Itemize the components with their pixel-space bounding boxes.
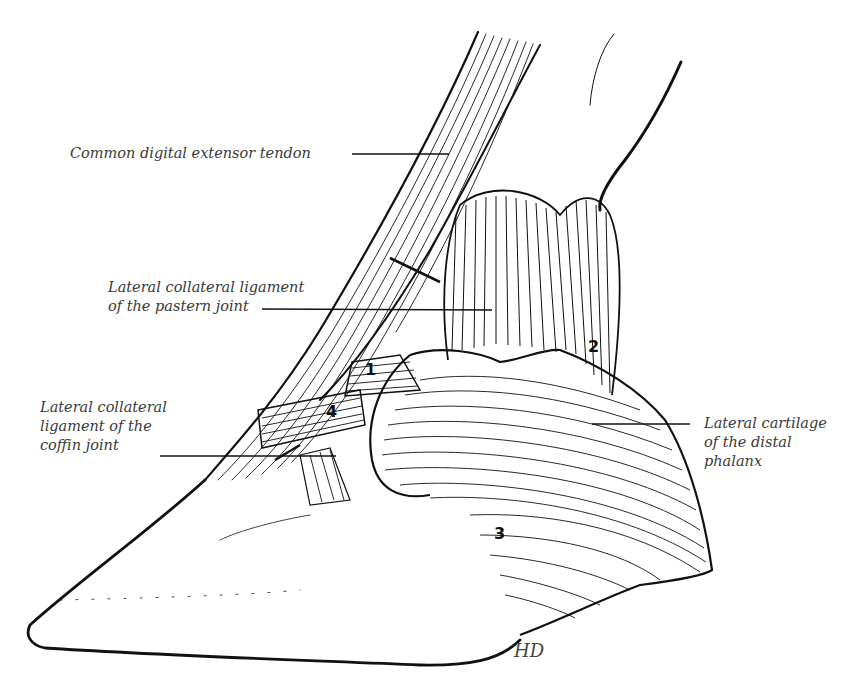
- lateral-cartilage-drawing: [370, 350, 712, 635]
- label-lateral-cartilage-distal-phalanx: Lateral cartilage of the distal phalanx: [704, 414, 827, 471]
- hoof-anatomy-illustration: [0, 0, 863, 678]
- label-lateral-collateral-ligament-pastern: Lateral collateral ligament of the paste…: [108, 278, 304, 316]
- extensor-tendon-drawing: [205, 32, 540, 480]
- artist-signature: HD: [514, 640, 544, 661]
- callout-number-2: 2: [588, 337, 599, 356]
- label-common-digital-extensor-tendon: Common digital extensor tendon: [70, 144, 311, 163]
- callout-number-4: 4: [326, 402, 337, 421]
- label-lateral-collateral-ligament-coffin: Lateral collateral ligament of the coffi…: [40, 398, 167, 455]
- pastern-outline: [590, 34, 681, 210]
- callout-number-3: 3: [494, 524, 505, 543]
- hoof-wall-outline: [28, 480, 520, 665]
- callout-number-1: 1: [365, 360, 376, 379]
